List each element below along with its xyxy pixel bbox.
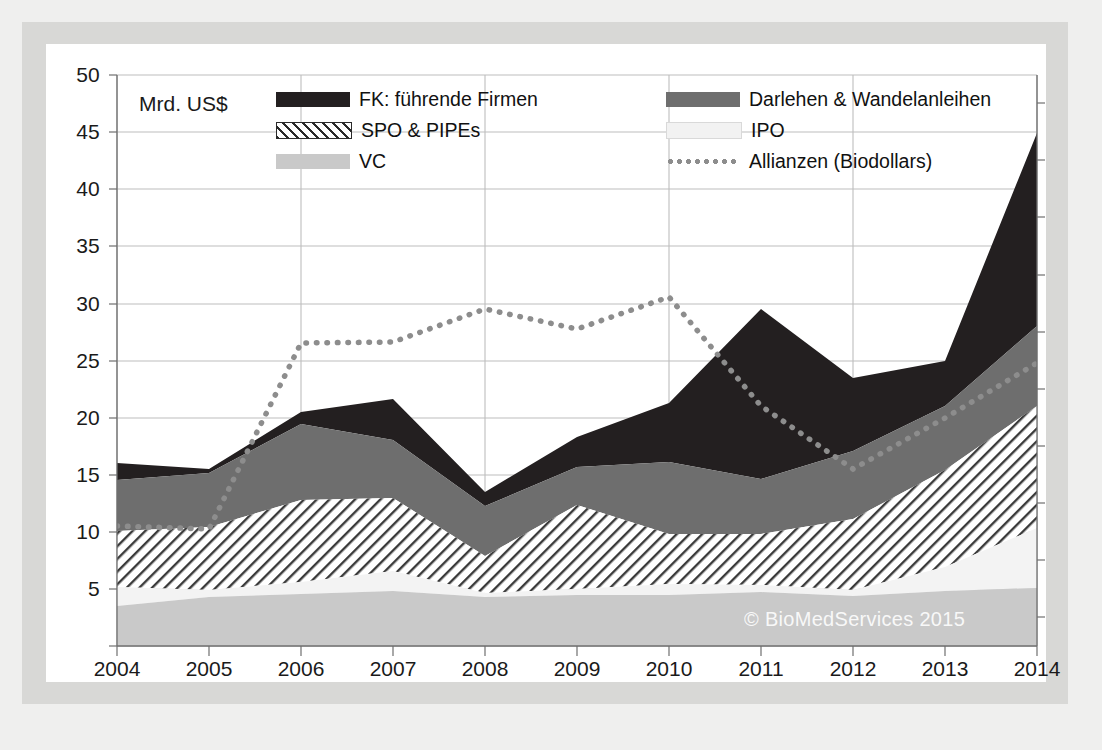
x-tick-label: 2004	[72, 657, 162, 681]
legend-label: IPO	[751, 119, 785, 142]
light-square-icon	[666, 122, 742, 139]
mid-light-square-icon	[276, 154, 350, 169]
legend-item-darlehen[interactable]: Darlehen & Wandelanleihen	[666, 88, 976, 111]
y-tick-label: 30	[44, 292, 100, 316]
x-tick-label: 2011	[716, 657, 806, 681]
y-tick-label: 35	[44, 234, 100, 258]
y-tick-label: 50	[44, 63, 100, 87]
x-tick-label: 2007	[348, 657, 438, 681]
stacked-areas	[117, 133, 1037, 646]
legend-label: SPO & PIPEs	[361, 119, 480, 142]
y-tick-label: 40	[44, 177, 100, 201]
dotted-line-icon	[666, 159, 740, 164]
legend-label: Allianzen (Biodollars)	[749, 150, 932, 173]
axis-unit-label: Mrd. US$	[139, 92, 228, 116]
y-tick-label: 5	[44, 577, 100, 601]
y-tick-label: 10	[44, 520, 100, 544]
y-tick-label: 20	[44, 406, 100, 430]
x-tick-label: 2006	[256, 657, 346, 681]
y-tick-label: 45	[44, 120, 100, 144]
x-tick-label: 2014	[992, 657, 1082, 681]
x-tick-label: 2013	[900, 657, 990, 681]
chart-legend: FK: führende Firmen Darlehen & Wandelanl…	[276, 84, 976, 177]
x-tick-label: 2005	[164, 657, 254, 681]
x-tick-label: 2009	[532, 657, 622, 681]
hatched-square-icon	[276, 122, 352, 139]
legend-label: Darlehen & Wandelanleihen	[749, 88, 991, 111]
solid-dark-square-icon	[276, 92, 350, 107]
legend-item-ipo[interactable]: IPO	[666, 119, 976, 142]
legend-item-spo-pipes[interactable]: SPO & PIPEs	[276, 119, 666, 142]
chart-page: Mrd. US$ 50 45 40 35 30 25 20 15 10 5 20…	[0, 0, 1102, 750]
legend-item-vc[interactable]: VC	[276, 150, 666, 173]
copyright-watermark: © BioMedServices 2015	[744, 608, 965, 631]
solid-gray-square-icon	[666, 92, 740, 107]
y-tick-label: 25	[44, 349, 100, 373]
x-tick-label: 2010	[624, 657, 714, 681]
y-tick-label: 15	[44, 463, 100, 487]
legend-label: VC	[359, 150, 386, 173]
x-tick-label: 2008	[440, 657, 530, 681]
legend-item-fk[interactable]: FK: führende Firmen	[276, 88, 666, 111]
legend-label: FK: führende Firmen	[359, 88, 538, 111]
x-tick-label: 2012	[808, 657, 898, 681]
legend-item-allianzen[interactable]: Allianzen (Biodollars)	[666, 150, 976, 173]
